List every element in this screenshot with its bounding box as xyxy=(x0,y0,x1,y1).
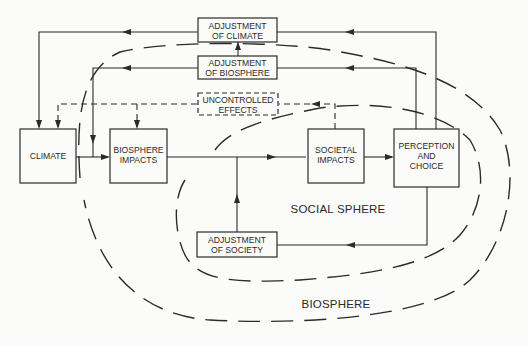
node-label: ADJUSTMENT xyxy=(209,21,268,31)
node-perception-and-choice: PERCEPTION AND CHOICE xyxy=(394,129,459,187)
node-label: AND xyxy=(417,151,435,161)
node-label: ADJUSTMENT xyxy=(209,58,268,68)
node-societal-impacts: SOCIETAL IMPACTS xyxy=(308,129,364,183)
edge-perception-to-adjustment-society xyxy=(277,187,427,245)
edge-perception-to-adjustment-climate xyxy=(277,32,436,129)
arrow-up-icon xyxy=(235,42,241,50)
arrow-left-icon xyxy=(345,65,354,71)
climate-society-interaction-diagram: ADJUSTMENT OF CLIMATE ADJUSTMENT OF BIOS… xyxy=(0,0,528,346)
node-label: EFFECTS xyxy=(218,105,257,115)
node-label: BIOSPHERE xyxy=(113,145,163,155)
node-label: OF SOCIETY xyxy=(211,245,263,255)
arrow-left-icon xyxy=(311,101,320,107)
edge-perception-to-adjustment-biosphere xyxy=(277,68,416,129)
node-uncontrolled-effects: UNCONTROLLED EFFECTS xyxy=(198,93,278,115)
arrow-down-icon xyxy=(36,120,42,129)
arrow-left-icon xyxy=(346,242,355,248)
node-adjustment-of-climate: ADJUSTMENT OF CLIMATE xyxy=(198,18,277,42)
edge-uncontrolled-effects-to-climate xyxy=(58,104,197,127)
arrow-right-icon xyxy=(385,154,394,160)
node-label: IMPACTS xyxy=(120,155,158,165)
region-label-biosphere: BIOSPHERE xyxy=(302,298,371,310)
arrow-right-icon xyxy=(267,154,276,160)
arrow-down-icon xyxy=(134,120,140,129)
node-label: PERCEPTION xyxy=(399,141,455,151)
node-label: ADJUSTMENT xyxy=(208,235,267,245)
arrow-up-icon xyxy=(234,194,240,203)
node-label: IMPACTS xyxy=(317,155,355,165)
edge-societal-impacts-to-uncontrolled-effects xyxy=(279,104,335,129)
arrow-right-icon xyxy=(101,154,110,160)
node-climate: CLIMATE xyxy=(20,129,76,183)
arrow-left-icon xyxy=(122,29,131,35)
arrow-down-icon xyxy=(90,135,96,144)
node-label: SOCIETAL xyxy=(315,145,357,155)
region-label-social-sphere: SOCIAL SPHERE xyxy=(291,203,386,215)
node-label: OF BIOSPHERE xyxy=(205,68,270,78)
node-label: CLIMATE xyxy=(30,151,67,161)
arrow-left-icon xyxy=(122,65,131,71)
node-label: CHOICE xyxy=(410,161,444,171)
node-biosphere-impacts: BIOSPHERE IMPACTS xyxy=(110,129,167,183)
node-adjustment-of-society: ADJUSTMENT OF SOCIETY xyxy=(197,232,277,257)
edge-adjustment-climate-to-climate xyxy=(39,32,198,127)
arrow-left-icon xyxy=(345,29,354,35)
node-label: UNCONTROLLED xyxy=(202,95,273,105)
node-adjustment-of-biosphere: ADJUSTMENT OF BIOSPHERE xyxy=(198,56,277,79)
arrow-down-icon xyxy=(55,120,61,129)
node-label: OF CLIMATE xyxy=(212,31,263,41)
